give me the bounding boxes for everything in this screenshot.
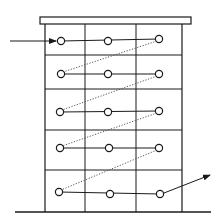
node-r4-c3 <box>155 144 162 151</box>
node-r2-c2 <box>104 70 111 77</box>
return-diagonal-2 <box>62 76 157 110</box>
node-r3-c2 <box>104 108 111 115</box>
floor-flow-lines <box>59 39 160 194</box>
node-r1-c3 <box>155 35 162 42</box>
node-r4-c2 <box>105 144 112 151</box>
node-r2-c3 <box>155 70 162 77</box>
node-r5-c1 <box>55 188 62 195</box>
node-r5-c2 <box>106 190 113 197</box>
building-flow-diagram <box>0 0 219 223</box>
outlet-arrow <box>164 175 210 193</box>
node-r1-c2 <box>104 37 111 44</box>
node-r5-c3 <box>156 190 163 197</box>
return-diagonal-1 <box>63 41 157 72</box>
node-r3-c1 <box>56 108 63 115</box>
flow-nodes <box>55 35 163 197</box>
node-r2-c1 <box>57 70 64 77</box>
roof-slab <box>40 17 191 24</box>
node-r3-c3 <box>155 107 162 114</box>
node-r1-c1 <box>57 37 64 44</box>
node-r4-c1 <box>56 144 63 151</box>
